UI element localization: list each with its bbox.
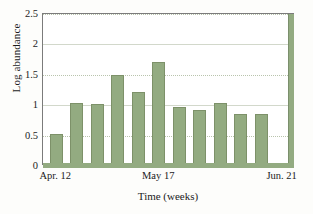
y-axis-tick-label: 0 bbox=[12, 160, 38, 171]
bar-slot bbox=[231, 14, 252, 164]
bar-slot bbox=[210, 14, 231, 164]
baseline-band bbox=[43, 163, 294, 168]
bar-slot bbox=[46, 14, 67, 164]
y-axis-tick-label: 2 bbox=[12, 38, 38, 49]
bar bbox=[111, 75, 124, 164]
chart-figure: Log abundance 00.511.522.5 Apr. 12May 17… bbox=[0, 0, 313, 214]
bar-slot bbox=[251, 14, 272, 164]
bar-slot bbox=[128, 14, 149, 164]
bar bbox=[132, 92, 145, 164]
bar bbox=[214, 103, 227, 164]
x-axis-tick-label: May 17 bbox=[142, 170, 174, 181]
bar-slot bbox=[190, 14, 211, 164]
x-axis-title: Time (weeks) bbox=[42, 190, 294, 202]
bar bbox=[152, 62, 165, 164]
bar-slot bbox=[108, 14, 129, 164]
bar-slot bbox=[169, 14, 190, 164]
bar bbox=[70, 103, 83, 164]
bar bbox=[234, 114, 247, 164]
right-edge-bar bbox=[288, 14, 294, 164]
x-axis-tick-label: Apr. 12 bbox=[40, 170, 72, 181]
y-axis-tick-label: 1 bbox=[12, 99, 38, 110]
y-axis-tick-label: 2.5 bbox=[12, 8, 38, 19]
bar bbox=[255, 114, 268, 164]
bar bbox=[173, 107, 186, 164]
bar bbox=[91, 104, 104, 164]
y-axis-tick-label: 1.5 bbox=[12, 68, 38, 79]
x-axis-tick-label: Jun. 21 bbox=[267, 170, 297, 181]
y-axis-tick-label: 0.5 bbox=[12, 129, 38, 140]
y-axis-tick-labels: 00.511.522.5 bbox=[8, 0, 38, 214]
bar bbox=[193, 110, 206, 164]
bar-slot bbox=[87, 14, 108, 164]
x-axis-tick-labels: Apr. 12May 17Jun. 21 bbox=[42, 170, 294, 184]
bar-slot bbox=[149, 14, 170, 164]
bar-series bbox=[43, 14, 294, 164]
bar-slot bbox=[67, 14, 88, 164]
plot-area bbox=[42, 13, 294, 165]
bar bbox=[50, 134, 63, 164]
